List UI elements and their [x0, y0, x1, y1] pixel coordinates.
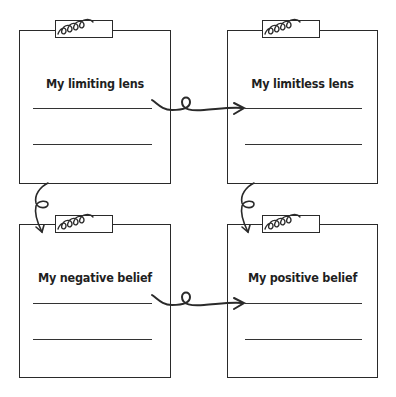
answer-line-1[interactable]	[245, 303, 362, 304]
answer-line-1[interactable]	[245, 108, 362, 109]
answer-line-2[interactable]	[33, 339, 152, 340]
answer-line-2[interactable]	[245, 339, 362, 340]
answer-line-2[interactable]	[245, 144, 362, 145]
answer-line-1[interactable]	[33, 108, 152, 109]
clip-tab	[55, 20, 113, 38]
clip-tab	[262, 20, 320, 38]
card-limitless-lens: My limitless lens	[227, 30, 378, 184]
card-title: My positive belief	[228, 270, 377, 285]
card-limiting-lens: My limiting lens	[19, 30, 171, 184]
answer-line-2[interactable]	[33, 144, 152, 145]
clip-tab	[262, 215, 320, 233]
answer-line-1[interactable]	[33, 303, 152, 304]
card-title: My negative belief	[20, 270, 170, 285]
clip-tab	[55, 215, 113, 233]
card-positive-belief: My positive belief	[227, 224, 378, 378]
card-title: My limiting lens	[20, 76, 170, 91]
card-negative-belief: My negative belief	[19, 224, 171, 378]
card-title: My limitless lens	[228, 76, 377, 91]
